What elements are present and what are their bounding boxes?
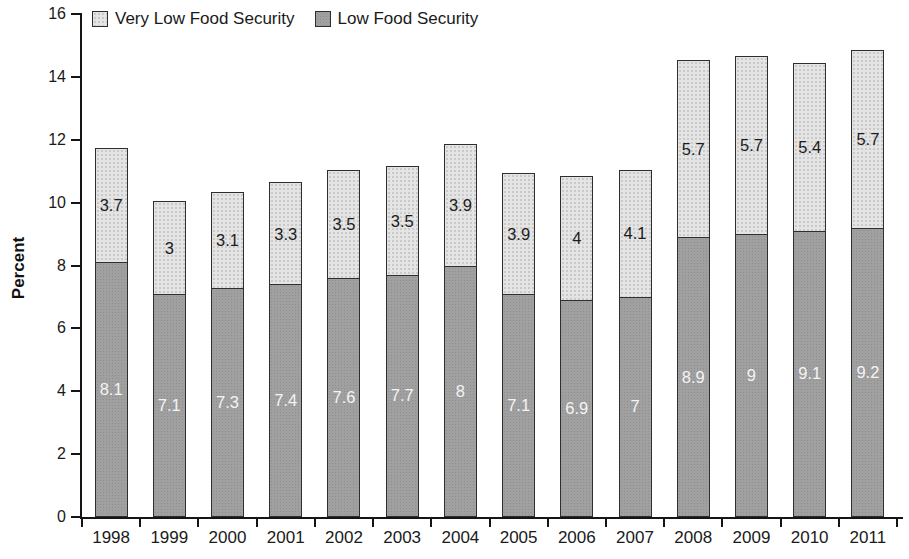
bar-value-very-low-2011: 5.7 <box>856 130 879 149</box>
bar-value-low-2005: 7.1 <box>507 396 530 415</box>
bar-value-very-low-2001: 3.3 <box>274 225 297 244</box>
bar-value-very-low-1999: 3 <box>165 239 174 258</box>
bar-value-very-low-2010: 5.4 <box>798 138 821 157</box>
x-tick-label-2004: 2004 <box>431 528 489 548</box>
legend-swatch-very-low-food-security <box>92 11 108 27</box>
y-axis-title: Percent <box>9 218 29 318</box>
bar-segment-very-low-2009: 5.7 <box>735 56 768 235</box>
legend-label-low-food-security: Low Food Security <box>338 9 479 29</box>
x-tick-mark <box>605 519 607 527</box>
bar-2003: 3.57.7 <box>386 166 419 517</box>
bar-segment-very-low-1998: 3.7 <box>95 148 128 264</box>
y-tick-label: 4 <box>28 381 66 401</box>
bar-segment-low-2010: 9.1 <box>793 231 826 517</box>
y-tick-mark <box>71 516 81 518</box>
y-tick-mark <box>71 265 81 267</box>
bar-value-very-low-1998: 3.7 <box>100 196 123 215</box>
bar-segment-very-low-2008: 5.7 <box>677 60 710 239</box>
y-tick-label: 16 <box>28 4 66 24</box>
bar-value-low-2000: 7.3 <box>216 393 239 412</box>
x-tick-mark <box>197 519 199 527</box>
bar-value-low-1999: 7.1 <box>158 396 181 415</box>
bar-segment-very-low-2005: 3.9 <box>502 173 535 296</box>
bar-segment-low-2000: 7.3 <box>211 288 244 517</box>
x-tick-label-2009: 2009 <box>722 528 780 548</box>
bar-segment-low-2002: 7.6 <box>327 278 360 517</box>
bar-value-low-2001: 7.4 <box>274 391 297 410</box>
y-tick-mark <box>71 202 81 204</box>
bar-2002: 3.57.6 <box>327 170 360 517</box>
bar-1998: 3.78.1 <box>95 148 128 517</box>
chart-figure: Percent Very Low Food Security Low Food … <box>0 0 909 559</box>
bar-2009: 5.79 <box>735 56 768 517</box>
x-tick-mark <box>139 519 141 527</box>
x-tick-mark <box>780 519 782 527</box>
bar-value-low-2002: 7.6 <box>332 388 355 407</box>
x-tick-label-2000: 2000 <box>198 528 256 548</box>
bar-value-low-2007: 7 <box>630 397 639 416</box>
bar-value-very-low-2006: 4 <box>572 229 581 248</box>
bar-segment-low-1998: 8.1 <box>95 262 128 517</box>
bar-2006: 46.9 <box>560 176 593 517</box>
x-tick-label-2008: 2008 <box>664 528 722 548</box>
x-tick-mark <box>663 519 665 527</box>
x-tick-mark <box>489 519 491 527</box>
bar-value-low-2010: 9.1 <box>798 364 821 383</box>
bar-value-very-low-2003: 3.5 <box>391 212 414 231</box>
legend-label-very-low-food-security: Very Low Food Security <box>115 9 295 29</box>
bar-value-very-low-2002: 3.5 <box>332 215 355 234</box>
bar-1999: 37.1 <box>153 201 186 517</box>
x-tick-label-2011: 2011 <box>839 528 897 548</box>
bar-segment-low-2005: 7.1 <box>502 294 535 517</box>
bar-2011: 5.79.2 <box>851 50 884 517</box>
bar-segment-low-2003: 7.7 <box>386 275 419 517</box>
bar-segment-low-1999: 7.1 <box>153 294 186 517</box>
bar-value-very-low-2008: 5.7 <box>682 140 705 159</box>
bar-value-very-low-2009: 5.7 <box>740 136 763 155</box>
bar-segment-very-low-2006: 4 <box>560 176 593 302</box>
bar-value-low-2009: 9 <box>747 366 756 385</box>
bar-value-low-2006: 6.9 <box>565 399 588 418</box>
bar-segment-very-low-2000: 3.1 <box>211 192 244 289</box>
x-tick-label-1998: 1998 <box>82 528 140 548</box>
x-tick-mark <box>547 519 549 527</box>
x-tick-mark <box>256 519 258 527</box>
bar-segment-very-low-2003: 3.5 <box>386 166 419 276</box>
bar-segment-low-2001: 7.4 <box>269 284 302 517</box>
x-tick-label-2005: 2005 <box>490 528 548 548</box>
bar-2008: 5.78.9 <box>677 60 710 517</box>
bar-value-low-1998: 8.1 <box>100 380 123 399</box>
y-tick-label: 14 <box>28 67 66 87</box>
bar-value-very-low-2005: 3.9 <box>507 225 530 244</box>
bar-segment-low-2009: 9 <box>735 234 768 517</box>
legend: Very Low Food Security Low Food Security <box>92 9 478 29</box>
bar-segment-low-2004: 8 <box>444 266 477 518</box>
x-tick-label-2010: 2010 <box>781 528 839 548</box>
bar-2007: 4.17 <box>619 170 652 517</box>
bar-segment-very-low-2011: 5.7 <box>851 50 884 229</box>
x-tick-label-2007: 2007 <box>606 528 664 548</box>
bar-value-low-2008: 8.9 <box>682 368 705 387</box>
legend-swatch-low-food-security <box>315 11 331 27</box>
bar-value-very-low-2004: 3.9 <box>449 196 472 215</box>
bar-value-low-2004: 8 <box>456 382 465 401</box>
bar-segment-low-2011: 9.2 <box>851 228 884 517</box>
y-tick-mark <box>71 13 81 15</box>
bar-value-low-2003: 7.7 <box>391 386 414 405</box>
bar-value-very-low-2000: 3.1 <box>216 231 239 250</box>
bar-segment-very-low-1999: 3 <box>153 201 186 295</box>
y-tick-label: 8 <box>28 256 66 276</box>
x-tick-mark <box>430 519 432 527</box>
bar-2005: 3.97.1 <box>502 173 535 517</box>
bar-2004: 3.98 <box>444 144 477 517</box>
x-tick-label-2002: 2002 <box>315 528 373 548</box>
y-tick-mark <box>71 139 81 141</box>
bar-segment-very-low-2004: 3.9 <box>444 144 477 267</box>
x-tick-mark <box>896 519 898 527</box>
bar-segment-very-low-2002: 3.5 <box>327 170 360 280</box>
y-tick-label: 0 <box>28 507 66 527</box>
x-tick-label-2003: 2003 <box>373 528 431 548</box>
bar-segment-low-2008: 8.9 <box>677 237 710 517</box>
y-tick-mark <box>71 390 81 392</box>
y-tick-mark <box>71 453 81 455</box>
